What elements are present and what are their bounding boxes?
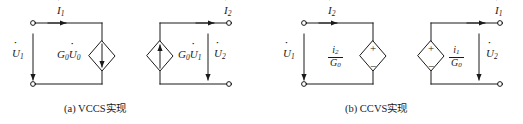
label-u1b-subscript: 1: [198, 53, 202, 62]
label-i1b-subscript: 1: [499, 9, 503, 18]
label-source-gu0-a: G0U0: [57, 49, 80, 61]
fraction-denominator: G0: [328, 57, 343, 70]
label-current-i1-a: I1: [57, 5, 64, 17]
label-u1b2-symbol: U: [283, 48, 291, 59]
denominator-subscript: 0: [458, 61, 462, 69]
fraction-numerator: i1: [449, 45, 464, 57]
label-u2b-symbol: U: [486, 48, 494, 59]
label-u0-symbol: U: [69, 49, 77, 60]
label-current-i1-b: I1: [495, 5, 502, 17]
label-i2b-subscript: 2: [332, 9, 336, 18]
label-g0-symbol: G: [57, 48, 65, 60]
label-voltage-u1-b: U1: [283, 48, 295, 60]
label-i1-subscript: 1: [61, 9, 65, 18]
label-u1b2-subscript: 1: [291, 52, 295, 61]
label-u2b-subscript: 2: [494, 52, 498, 61]
label-voltage-u1-a: U1: [12, 48, 24, 60]
label-u1-subscript: 1: [20, 52, 24, 61]
label-u1b-symbol: U: [190, 49, 198, 60]
terminal-node: [498, 82, 503, 87]
terminal-node: [31, 21, 36, 26]
label-voltage-u2-b: U2: [486, 48, 498, 60]
terminal-node: [302, 82, 307, 87]
source-minus-sign-right-b: −: [428, 61, 434, 72]
caption-panel-a: (a) VCCS实现: [64, 100, 126, 115]
label-u2-subscript: 2: [222, 52, 226, 61]
label-fraction-i2-over-g0: i2 G0: [328, 45, 343, 70]
label-i2-subscript: 2: [228, 9, 232, 18]
label-u2-symbol: U: [214, 48, 222, 59]
source-plus-sign-left-b: +: [370, 43, 376, 54]
denominator-subscript: 0: [337, 61, 341, 69]
terminal-node: [227, 82, 232, 87]
label-i2-symbol: I: [224, 5, 228, 16]
label-i1b-symbol: I: [495, 5, 499, 16]
label-g0b-symbol: G: [178, 48, 186, 60]
label-source-gu1-a: G0U1: [178, 49, 201, 61]
terminal-node: [31, 82, 36, 87]
label-u1-symbol: U: [12, 48, 20, 59]
label-voltage-u2-a: U2: [214, 48, 226, 60]
label-i2b-symbol: I: [328, 5, 332, 16]
label-u0-subscript: 0: [77, 53, 81, 62]
numerator-subscript: 2: [335, 48, 339, 56]
circuit-figure: I1 U1 G0U0 G0U1 I2 U2 (a) VCCS实现 I2 U1 i…: [0, 0, 523, 124]
terminal-node: [302, 21, 307, 26]
fraction-denominator: G0: [449, 57, 464, 70]
label-i1-symbol: I: [57, 5, 61, 16]
terminal-node: [498, 21, 503, 26]
label-current-i2-b: I2: [328, 5, 335, 17]
numerator-subscript: 1: [456, 48, 460, 56]
source-minus-sign-left-b: −: [370, 61, 376, 72]
caption-panel-b: (b) CCVS实现: [345, 100, 407, 115]
label-current-i2-a: I2: [224, 5, 231, 17]
source-plus-sign-right-b: +: [428, 43, 434, 54]
label-fraction-i1-over-g0: i1 G0: [449, 45, 464, 70]
terminal-node: [227, 21, 232, 26]
fraction-numerator: i2: [328, 45, 343, 57]
